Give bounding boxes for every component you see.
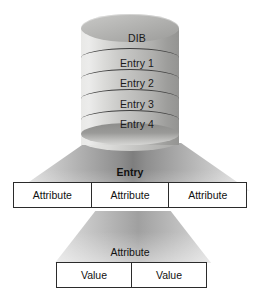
cylinder-label-entry-4: Entry 4 (81, 118, 179, 130)
value-cell-1: Value (57, 263, 131, 287)
cylinder-label-dib: DIB (81, 32, 179, 44)
attribute-section-label: Attribute (0, 246, 260, 258)
attribute-cell-3: Attribute (168, 183, 246, 207)
cylinder-label-entry-3: Entry 3 (81, 98, 179, 110)
dib-hierarchy-diagram: DIB Entry 1 Entry 2 Entry 3 Entry 4 Entr… (0, 0, 260, 300)
attribute-cell-2: Attribute (91, 183, 169, 207)
entry-attribute-row: Attribute Attribute Attribute (13, 182, 247, 208)
attribute-value-row: Value Value (56, 262, 207, 288)
value-cell-2: Value (131, 263, 206, 287)
database-cylinder-icon: DIB Entry 1 Entry 2 Entry 3 Entry 4 (81, 14, 179, 145)
entry-section-label: Entry (0, 166, 260, 178)
attribute-cell-1: Attribute (14, 183, 91, 207)
cylinder-label-entry-1: Entry 1 (81, 57, 179, 69)
cylinder-label-entry-2: Entry 2 (81, 77, 179, 89)
